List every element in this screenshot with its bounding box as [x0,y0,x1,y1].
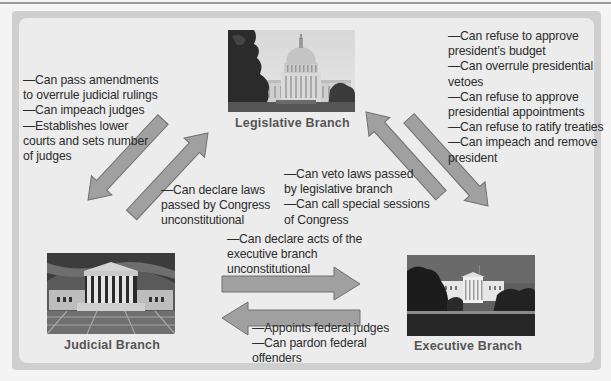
judicial-checks-on-executive: —Can declare acts of the executive branc… [227,232,362,278]
executive-checks-on-judicial: —Appoints federal judges —Can pardon fed… [252,321,389,367]
judicial-checks-on-legislative: —Can declare laws passed by Congress unc… [161,183,270,229]
legislative-checks-on-judicial: —Can pass amendments to overrule judicia… [23,73,159,164]
legislative-checks-on-executive: —Can refuse to approve president’s budge… [448,29,604,166]
executive-checks-on-legislative: —Can veto laws passed by legislative bra… [284,167,430,228]
